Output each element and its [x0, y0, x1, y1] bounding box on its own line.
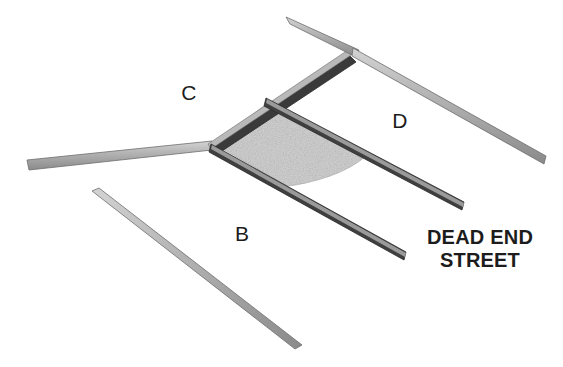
dead-end-street-label-line1: DEAD END — [415, 227, 545, 249]
street-top-northwest-stub — [286, 17, 359, 57]
street-d-east-leg — [352, 48, 546, 164]
street-c-west-leg — [27, 141, 212, 170]
label-b: B — [228, 223, 256, 246]
street-b-southwest-leg — [92, 188, 302, 349]
dead-end-street-label-line2: STREET — [415, 250, 545, 272]
label-c: C — [175, 82, 203, 105]
site-diagram: C B D DEAD END STREET — [0, 0, 563, 367]
road-network-svg — [0, 0, 563, 367]
label-d: D — [386, 110, 414, 133]
